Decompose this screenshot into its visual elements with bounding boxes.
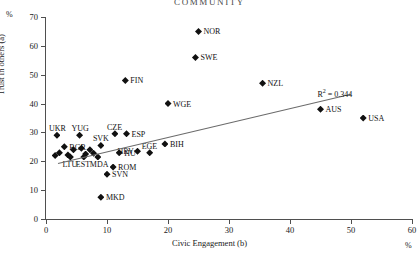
data-point-label: USA bbox=[368, 114, 384, 123]
data-point-label: CZE bbox=[107, 122, 122, 131]
y-tick-label: 10 bbox=[14, 185, 38, 195]
y-tick-label: 0 bbox=[14, 214, 38, 224]
trend-line bbox=[58, 93, 351, 163]
data-point-label: SVN bbox=[112, 170, 128, 179]
y-tick bbox=[41, 190, 45, 191]
x-tick bbox=[412, 220, 413, 224]
y-tick bbox=[41, 75, 45, 76]
data-point-label: BIH bbox=[170, 139, 184, 148]
x-tick bbox=[290, 220, 291, 224]
data-point bbox=[123, 130, 130, 137]
data-point-label: ESP bbox=[132, 129, 146, 138]
data-point bbox=[97, 142, 104, 149]
data-point-label: YUG bbox=[72, 124, 89, 133]
data-point-label: HU bbox=[124, 148, 136, 157]
x-tick-label: 40 bbox=[275, 225, 305, 235]
chart-title: COMMUNITY bbox=[0, 0, 419, 7]
data-point bbox=[360, 115, 367, 122]
data-point bbox=[111, 130, 118, 137]
y-tick bbox=[41, 46, 45, 47]
x-tick-label: 0 bbox=[31, 225, 61, 235]
y-tick-label: 60 bbox=[14, 41, 38, 51]
x-tick-label: 10 bbox=[92, 225, 122, 235]
x-tick bbox=[107, 220, 108, 224]
data-point-label: SVK bbox=[93, 134, 109, 143]
data-point bbox=[104, 171, 111, 178]
data-point-label: WGE bbox=[173, 99, 191, 108]
data-point-label: NOR bbox=[204, 27, 221, 36]
data-point bbox=[122, 77, 129, 84]
data-point-label: SWE bbox=[200, 53, 217, 62]
data-point bbox=[61, 143, 68, 150]
data-point-label: NZL bbox=[268, 79, 284, 88]
y-tick-label: 30 bbox=[14, 127, 38, 137]
y-tick bbox=[41, 17, 45, 18]
y-tick-label: 70 bbox=[14, 12, 38, 22]
data-point-label: EST bbox=[76, 159, 90, 168]
data-point-label: MKD bbox=[106, 193, 125, 202]
y-tick bbox=[41, 161, 45, 162]
y-tick bbox=[41, 104, 45, 105]
data-point bbox=[53, 132, 60, 139]
data-point bbox=[97, 194, 104, 201]
data-point bbox=[259, 80, 266, 87]
data-point bbox=[192, 54, 199, 61]
data-point-label: FIN bbox=[130, 76, 143, 85]
y-axis-line bbox=[45, 17, 46, 220]
data-point bbox=[76, 132, 83, 139]
y-tick-label: 50 bbox=[14, 70, 38, 80]
x-tick bbox=[46, 220, 47, 224]
x-tick-label: 60 bbox=[397, 225, 419, 235]
x-tick bbox=[351, 220, 352, 224]
data-point bbox=[161, 140, 168, 147]
data-point bbox=[317, 106, 324, 113]
data-point bbox=[165, 100, 172, 107]
y-tick-label: 40 bbox=[14, 99, 38, 109]
scatter-chart: COMMUNITY % % Trust in others (a) Civic … bbox=[0, 0, 419, 259]
data-point bbox=[146, 149, 153, 156]
y-tick bbox=[41, 219, 45, 220]
x-tick bbox=[229, 220, 230, 224]
y-tick bbox=[41, 132, 45, 133]
data-point-label: UKR bbox=[49, 124, 66, 133]
y-axis-label: Trust in others (a) bbox=[0, 34, 6, 95]
x-axis-label: Civic Engagement (b) bbox=[0, 238, 419, 248]
x-tick-label: 20 bbox=[153, 225, 183, 235]
y-axis-unit: % bbox=[6, 10, 13, 19]
data-point-label: AUS bbox=[326, 105, 342, 114]
r-squared-annotation: R2 = 0.344 bbox=[317, 88, 352, 99]
data-point-label: MDA bbox=[90, 159, 109, 168]
x-tick-label: 50 bbox=[336, 225, 366, 235]
x-tick-label: 30 bbox=[214, 225, 244, 235]
x-tick bbox=[168, 220, 169, 224]
y-tick-label: 20 bbox=[14, 156, 38, 166]
data-point bbox=[195, 28, 202, 35]
